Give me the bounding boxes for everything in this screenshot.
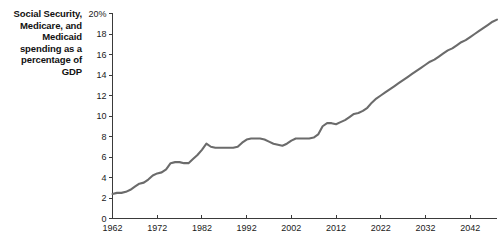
y-tick-label: 6 (101, 152, 106, 162)
y-tick-label: 12 (96, 91, 106, 101)
y-tick-label: 10 (96, 111, 106, 121)
x-tick-label: 1962 (102, 223, 122, 233)
y-axis-ticks: 02468101214161820% (88, 9, 112, 224)
x-tick-label: 2022 (371, 223, 391, 233)
spending-series-line (113, 20, 498, 194)
x-tick-label: 1982 (192, 223, 212, 233)
y-tick-label: 4 (101, 173, 106, 183)
y-tick-label: 20% (88, 9, 106, 19)
x-tick-label: 1992 (237, 223, 257, 233)
x-tick-label: 2002 (281, 223, 301, 233)
y-tick-label: 8 (101, 132, 106, 142)
y-tick-label: 18 (96, 29, 106, 39)
x-tick-label: 2042 (460, 223, 480, 233)
x-axis-ticks: 196219721982199220022012202220322042 (102, 215, 480, 233)
x-tick-label: 1972 (147, 223, 167, 233)
x-tick-label: 2032 (415, 223, 435, 233)
y-tick-label: 16 (96, 50, 106, 60)
x-tick-label: 2012 (326, 223, 346, 233)
y-tick-label: 14 (96, 70, 106, 80)
y-tick-label: 2 (101, 193, 106, 203)
chart-figure: Social Security, Medicare, and Medicaid … (0, 0, 502, 243)
line-chart-plot: 02468101214161820% 196219721982199220022… (0, 0, 502, 243)
